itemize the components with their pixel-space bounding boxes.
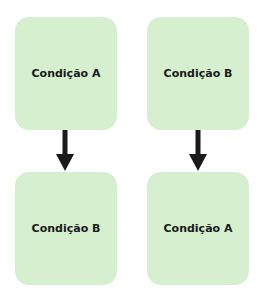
right-top-label: Condição B	[164, 67, 233, 80]
left-bottom-box: Condição B	[15, 172, 117, 285]
left-bottom-label: Condição B	[32, 222, 101, 235]
left-top-label: Condição A	[32, 67, 101, 80]
right-bottom-box: Condição A	[147, 172, 249, 285]
left-arrow-down-icon	[55, 130, 75, 172]
right-arrow-down-icon	[188, 130, 208, 172]
right-top-box: Condição B	[147, 17, 249, 130]
left-top-box: Condição A	[15, 17, 117, 130]
right-bottom-label: Condição A	[164, 222, 233, 235]
